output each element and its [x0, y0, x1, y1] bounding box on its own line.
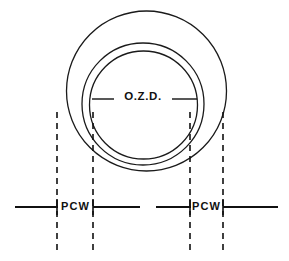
- middle-circle: [82, 43, 204, 165]
- ozd-label: O.Z.D.: [124, 90, 161, 102]
- diagram-canvas: O.Z.D. PCW PCW: [0, 0, 289, 261]
- pcw-left-label: PCW: [61, 200, 90, 212]
- inner-circle: [90, 51, 198, 159]
- pcw-right-label: PCW: [192, 200, 221, 212]
- lens-cross-section-diagram: O.Z.D. PCW PCW: [0, 0, 289, 261]
